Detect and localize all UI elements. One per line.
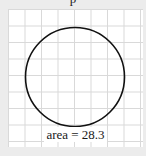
area-label: area = 28.3 bbox=[8, 127, 143, 143]
area-value: area = 28.3 bbox=[44, 127, 106, 142]
